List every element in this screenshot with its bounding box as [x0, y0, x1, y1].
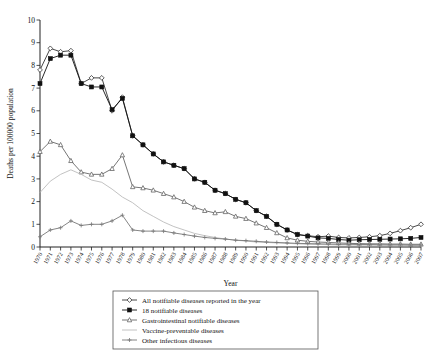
figure-container: 012345678910Deaths per 100000 population… [0, 0, 433, 354]
series-line [40, 55, 421, 240]
data-point [79, 82, 83, 86]
data-point [285, 236, 289, 240]
x-tick-label: 1992 [259, 252, 270, 265]
y-tick-label: 9 [31, 38, 35, 47]
data-point [285, 241, 289, 245]
data-point [131, 134, 135, 138]
data-point [265, 214, 269, 218]
data-point [295, 233, 299, 237]
series-line [40, 141, 421, 244]
data-point [48, 46, 53, 51]
data-point [203, 208, 207, 212]
data-point [151, 152, 155, 156]
data-point [151, 229, 155, 233]
data-point [234, 197, 238, 201]
y-tick-label: 5 [31, 129, 35, 138]
x-tick-label: 2003 [372, 252, 383, 265]
y-tick-label: 7 [31, 84, 35, 93]
x-tick-label: 2005 [393, 252, 404, 265]
data-point [244, 216, 248, 220]
x-tick-label: 1978 [115, 252, 126, 265]
data-point [100, 172, 104, 176]
x-tick-label: 1998 [320, 252, 331, 265]
data-point [213, 211, 217, 215]
data-point [172, 163, 176, 167]
x-tick-label: 2002 [362, 252, 373, 265]
data-point [388, 231, 393, 236]
data-point [172, 231, 176, 235]
y-tick-label: 2 [31, 197, 35, 206]
x-tick-label: 2004 [382, 252, 393, 265]
data-point [128, 308, 132, 312]
data-point [110, 108, 114, 112]
data-point [100, 222, 104, 226]
data-point [141, 143, 145, 147]
y-tick-label: 8 [31, 61, 35, 70]
data-point [58, 142, 62, 146]
data-point [59, 53, 63, 57]
data-point [120, 153, 124, 157]
x-tick-label: 2007 [413, 252, 424, 265]
x-tick-label: 1996 [300, 252, 311, 265]
data-point [69, 53, 73, 57]
series-line [40, 215, 421, 245]
data-point [130, 184, 134, 188]
x-tick-label: 1984 [176, 252, 187, 265]
x-tick-label: 1987 [207, 252, 218, 265]
data-point [244, 239, 248, 243]
data-point [38, 68, 43, 73]
legend-label-4: Vaccine-preventable diseases [142, 327, 224, 335]
y-tick-label: 6 [31, 106, 35, 115]
data-point [89, 75, 94, 80]
data-point [275, 222, 279, 226]
data-point [172, 195, 176, 199]
y-tick-label: 1 [31, 220, 35, 229]
x-tick-label: 2006 [403, 252, 414, 265]
y-tick-label: 3 [31, 175, 35, 184]
data-point [254, 221, 258, 225]
data-point [68, 48, 73, 53]
data-point [223, 237, 227, 241]
y-axis-title: Deaths per 100000 population [6, 88, 15, 179]
x-tick-label: 1975 [84, 252, 95, 265]
x-tick-label: 1972 [53, 252, 64, 265]
legend-label-5: Other infectious diseases [142, 337, 212, 345]
data-point [162, 160, 166, 164]
data-point [151, 188, 155, 192]
data-point [254, 209, 258, 213]
data-point [89, 85, 93, 89]
data-point [295, 238, 299, 242]
x-tick-label: 1986 [197, 252, 208, 265]
x-tick-label: 1990 [238, 252, 249, 265]
x-tick-label: 1995 [290, 252, 301, 265]
series-line [40, 48, 421, 238]
data-point [38, 82, 42, 86]
data-point [419, 222, 424, 227]
legend-label-1: All notifiable diseases reported in the … [142, 297, 261, 305]
data-point [388, 237, 392, 241]
x-tick-label: 1997 [310, 252, 321, 265]
data-point [182, 167, 186, 171]
data-point [48, 57, 52, 61]
data-point [89, 222, 93, 226]
legend-label-2: 18 notifiable diseases [142, 307, 203, 315]
data-point [213, 188, 217, 192]
data-point [120, 96, 124, 100]
x-tick-label: 1989 [228, 252, 239, 265]
data-point [110, 219, 114, 223]
data-point [398, 228, 403, 233]
data-point [419, 235, 423, 239]
data-point [234, 238, 238, 242]
data-point [409, 236, 413, 240]
data-point [192, 234, 196, 238]
data-point [275, 240, 279, 244]
data-point [182, 233, 186, 237]
x-tick-label: 1993 [269, 252, 280, 265]
data-point [192, 205, 196, 209]
data-point [48, 139, 52, 143]
data-point [233, 214, 237, 218]
data-point [100, 85, 104, 89]
data-point [244, 201, 248, 205]
series-3 [38, 139, 423, 246]
data-point [265, 240, 269, 244]
